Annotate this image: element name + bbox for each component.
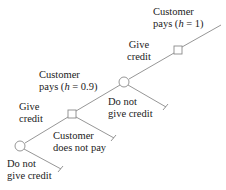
label-line: credit	[127, 51, 151, 63]
label-do-not-give-credit-2: Do not give credit	[108, 96, 153, 120]
label-line: pays (h = 0.9)	[39, 81, 97, 93]
label-line: Give	[19, 101, 43, 113]
terminal-tick-3	[163, 104, 168, 110]
label-line: does not pay	[53, 142, 106, 154]
label-give-credit-2: Give credit	[127, 39, 151, 63]
label-line: Customer	[53, 130, 106, 142]
terminal-tick-1	[58, 166, 63, 172]
label-line: credit	[19, 113, 43, 125]
label-customer-pays-h09: Customer pays (h = 0.9)	[39, 69, 97, 93]
decision-node-2	[119, 77, 129, 87]
label-line: Give	[127, 39, 151, 51]
label-do-not-give-credit-1: Do not give credit	[7, 158, 52, 182]
chance-node-1	[68, 110, 76, 118]
label-text: pays (	[39, 81, 64, 92]
label-line: Customer	[153, 6, 204, 18]
label-text: pays (	[153, 18, 178, 29]
label-line: pays (h = 1)	[153, 18, 204, 30]
label-line: Do not	[108, 96, 153, 108]
decision-node-1	[15, 141, 25, 151]
label-line: Do not	[7, 158, 52, 170]
label-customer-does-not-pay: Customer does not pay	[53, 130, 106, 154]
label-text: = 0.9)	[70, 81, 98, 92]
label-customer-pays-h1: Customer pays (h = 1)	[153, 6, 204, 30]
terminal-tick-2	[111, 135, 116, 141]
label-line: give credit	[108, 108, 153, 120]
label-give-credit-1: Give credit	[19, 101, 43, 125]
label-line: give credit	[7, 170, 52, 182]
label-text: = 1)	[184, 18, 204, 29]
label-line: Customer	[39, 69, 97, 81]
chance-node-2	[174, 46, 182, 54]
